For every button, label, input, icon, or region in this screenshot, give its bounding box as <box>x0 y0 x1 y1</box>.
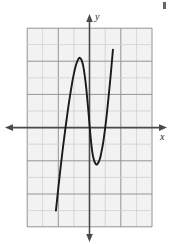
y-axis-label: y <box>94 11 100 22</box>
y-axis-arrow-down <box>86 234 93 242</box>
y-axis-arrow-up <box>86 14 93 22</box>
screenshot-root: y x <box>0 0 177 244</box>
x-axis-arrow-right <box>159 124 167 131</box>
x-axis-arrow-left <box>5 124 13 131</box>
x-axis-label: x <box>159 131 165 142</box>
coordinate-graph-figure: y x <box>0 0 177 244</box>
